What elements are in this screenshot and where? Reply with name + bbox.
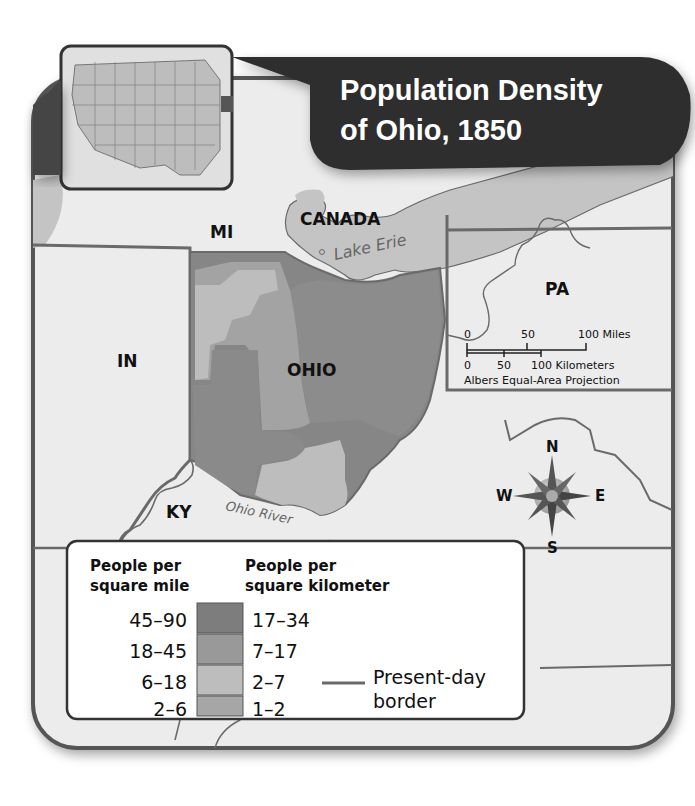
legend-col1-header-2: square mile [90,577,189,595]
label-ky: KY [166,502,192,522]
label-mi: MI [210,222,233,242]
map-figure: Population Density of Ohio, 1850 MI CANA… [0,0,695,806]
legend: People per square mile People per square… [67,541,524,720]
legend-col2-header-1: People per [245,557,337,575]
legend-row: 2–6 1–2 [153,696,285,720]
scale-miles-50: 50 [521,328,535,341]
label-pa: PA [545,279,570,299]
compass-s: S [547,539,558,557]
compass-e: E [595,487,605,505]
legend-mile-value: 2–6 [153,698,187,720]
label-ohio: OHIO [287,360,336,380]
legend-km-value: 17–34 [252,609,310,631]
title-line-1: Population Density [340,74,603,106]
compass-w: W [496,487,513,505]
border-line-label-2: border [373,690,436,712]
title-line-2: of Ohio, 1850 [340,114,522,146]
legend-km-value: 1–2 [252,698,286,720]
scale-km-100: 100 Kilometers [531,359,615,372]
legend-mile-value: 6–18 [141,671,187,693]
scale-km-50: 50 [497,359,511,372]
legend-col2-header-2: square kilometer [245,577,390,595]
border-line-label-1: Present-day [373,666,486,688]
legend-km-value: 7–17 [252,640,298,662]
scale-miles-100: 100 Miles [578,328,631,341]
locator-inset [61,46,233,189]
projection-note: Albers Equal-Area Projection [464,374,620,387]
scale-miles-0: 0 [464,328,471,341]
label-in: IN [117,351,138,371]
compass-n: N [546,438,559,456]
legend-mile-value: 45–90 [129,609,187,631]
label-canada: CANADA [300,209,381,229]
scale-km-0: 0 [464,359,471,372]
legend-col1-header-1: People per [90,557,182,575]
legend-mile-value: 18–45 [129,640,187,662]
ohio-highlight [221,96,233,112]
legend-km-value: 2–7 [252,671,286,693]
